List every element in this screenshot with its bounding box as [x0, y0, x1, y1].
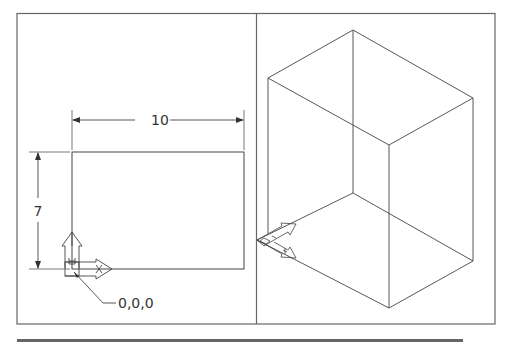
- dimension-text-7: 7: [34, 203, 43, 219]
- right-viewport[interactable]: [257, 30, 473, 308]
- ucs-icon: [62, 232, 112, 279]
- ucs-iso-icon: [257, 223, 296, 258]
- origin-leader: 0,0,0: [74, 272, 154, 311]
- horizontal-dimension: 10: [72, 110, 244, 150]
- drawing-canvas: 10 7: [0, 0, 509, 343]
- origin-label: 0,0,0: [118, 295, 154, 311]
- bottom-rule: [17, 339, 463, 342]
- isometric-box: [257, 30, 473, 308]
- plan-rectangle: [72, 152, 244, 269]
- dimension-text-10: 10: [151, 112, 169, 128]
- outer-frame: [17, 14, 495, 325]
- left-viewport[interactable]: 10 7: [29, 110, 244, 311]
- vertical-dimension: 7: [29, 152, 70, 269]
